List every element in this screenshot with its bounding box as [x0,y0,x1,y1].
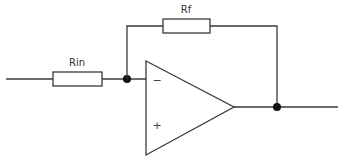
input-resistor-label: Rin [69,57,85,68]
feedback-resistor [163,19,210,33]
input-resistor [53,72,102,86]
feedback-wire-right [210,26,277,107]
inverting-input-symbol: − [152,74,161,87]
output-junction-node [273,103,281,111]
inverting-amplifier-schematic: Rin Rf − + [0,0,343,168]
feedback-resistor-label: Rf [181,4,192,15]
non-inverting-input-symbol: + [152,119,161,132]
